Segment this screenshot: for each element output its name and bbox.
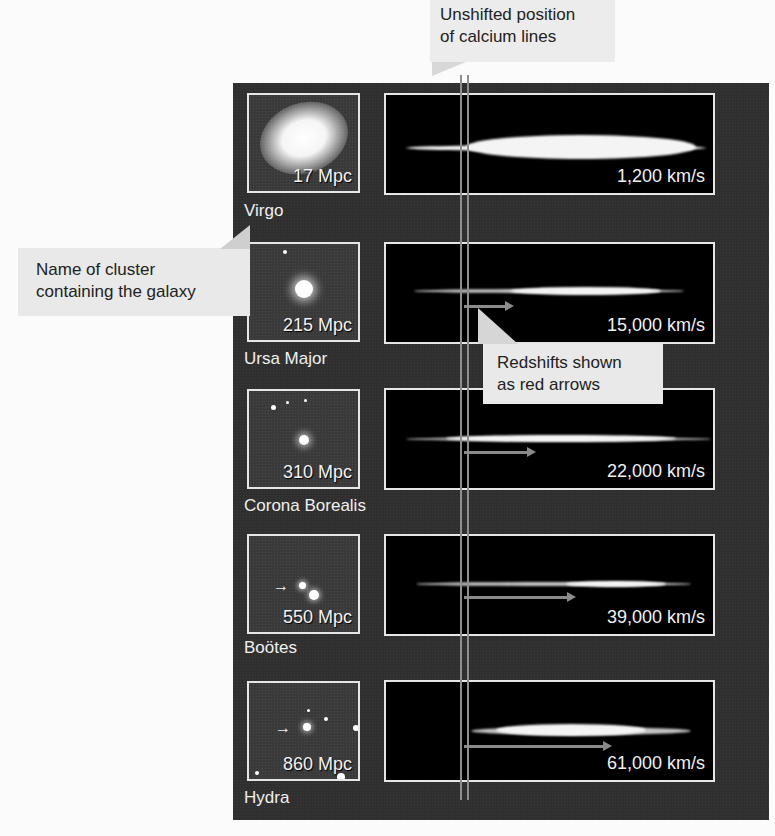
- callout-text: Unshifted position: [440, 4, 605, 26]
- spectrum-band-core: [511, 287, 661, 295]
- redshift-arrow: [464, 451, 528, 454]
- distance-label: 215 Mpc: [283, 315, 352, 336]
- star: [286, 401, 289, 404]
- spectrum-band-core: [496, 724, 646, 736]
- velocity-label: 15,000 km/s: [607, 315, 705, 336]
- spectrum-bootes: 39,000 km/s: [384, 534, 715, 636]
- star: [324, 717, 328, 721]
- calcium-line-reference: [467, 75, 469, 800]
- distance-label: 860 Mpc: [283, 754, 352, 775]
- galaxy-image-virgo: 17 Mpc: [247, 93, 360, 193]
- spectrum-band-core: [446, 435, 676, 442]
- cluster-name: Ursa Major: [244, 349, 327, 369]
- callout-pointer: [478, 308, 518, 344]
- galaxy-image-corona-borealis: 310 Mpc: [247, 389, 360, 489]
- star: [353, 725, 359, 731]
- distance-label: 17 Mpc: [293, 166, 352, 187]
- velocity-label: 61,000 km/s: [607, 753, 705, 774]
- star: [307, 709, 310, 712]
- callout-text: containing the galaxy: [36, 281, 232, 303]
- distance-label: 550 Mpc: [283, 607, 352, 628]
- spectrum-ursa-major: 15,000 km/s: [384, 242, 715, 344]
- spectrum-band-core: [566, 581, 666, 587]
- callout-text: of calcium lines: [440, 26, 605, 48]
- velocity-label: 39,000 km/s: [607, 607, 705, 628]
- velocity-label: 22,000 km/s: [607, 461, 705, 482]
- star: [309, 590, 319, 600]
- redshift-arrow: [464, 745, 604, 748]
- cluster-name: Virgo: [244, 201, 283, 221]
- callout-pointer: [432, 62, 466, 76]
- redshift-arrow: [464, 596, 568, 599]
- galaxy-image-hydra: → 860 Mpc: [247, 681, 360, 781]
- star: [271, 405, 276, 410]
- cluster-name: Corona Borealis: [244, 496, 366, 516]
- galaxy: [299, 582, 306, 589]
- spectrum-hydra: 61,000 km/s: [384, 680, 715, 782]
- cluster-name: Hydra: [244, 788, 289, 808]
- galaxy: [303, 723, 311, 731]
- galaxy-image-bootes: → 550 Mpc: [247, 534, 360, 634]
- callout-pointer: [220, 225, 250, 249]
- callout-cluster-name: Name of cluster containing the galaxy: [18, 248, 250, 316]
- galaxy: [299, 435, 309, 445]
- star: [304, 399, 307, 402]
- distance-label: 310 Mpc: [283, 462, 352, 483]
- spectrum-band-core: [466, 135, 696, 159]
- cluster-name: Boötes: [244, 638, 297, 658]
- arrow-pointer-icon: →: [275, 720, 291, 736]
- velocity-label: 1,200 km/s: [617, 166, 705, 187]
- callout-text: Name of cluster: [36, 259, 232, 281]
- star: [283, 250, 287, 254]
- galaxy: [295, 280, 313, 298]
- callout-redshifts: Redshifts shown as red arrows: [483, 344, 663, 404]
- callout-text: Redshifts shown: [497, 352, 649, 374]
- galaxy-image-ursa-major: 215 Mpc: [247, 242, 360, 342]
- calcium-line-reference: [460, 75, 462, 800]
- callout-unshifted-position: Unshifted position of calcium lines: [430, 0, 615, 62]
- callout-text: as red arrows: [497, 374, 649, 396]
- arrow-pointer-icon: →: [273, 578, 289, 594]
- spectrum-virgo: 1,200 km/s: [384, 93, 715, 195]
- star: [255, 771, 259, 775]
